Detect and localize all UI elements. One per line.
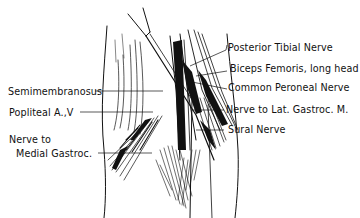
label-popliteal-av: Popliteal A.,V (9, 107, 73, 118)
label-common-peroneal-nerve: Common Peroneal Nerve (228, 82, 350, 93)
label-posterior-tibial-nerve: Posterior Tibial Nerve (228, 42, 333, 53)
label-sural-nerve: Sural Nerve (228, 124, 285, 135)
leg-outline-left (102, 26, 107, 218)
anatomy-diagram: Posterior Tibial Nerve Biceps Femoris, l… (0, 0, 360, 218)
label-semimembranosus: Semimembranosus (8, 86, 102, 97)
label-nerve-to-lat-gastroc: Nerve to Lat. Gastroc. M. (226, 104, 348, 115)
label-nerve-to-medial-gastroc-line1: Nerve to (9, 134, 51, 145)
retractor (128, 8, 150, 36)
sural-nerve-line (190, 100, 192, 218)
popliteal-vessels-dark (173, 40, 186, 150)
label-nerve-to-medial-gastroc-line2: Medial Gastroc. (16, 148, 92, 159)
label-biceps-femoris-long-head: Biceps Femoris, long head (230, 63, 359, 74)
